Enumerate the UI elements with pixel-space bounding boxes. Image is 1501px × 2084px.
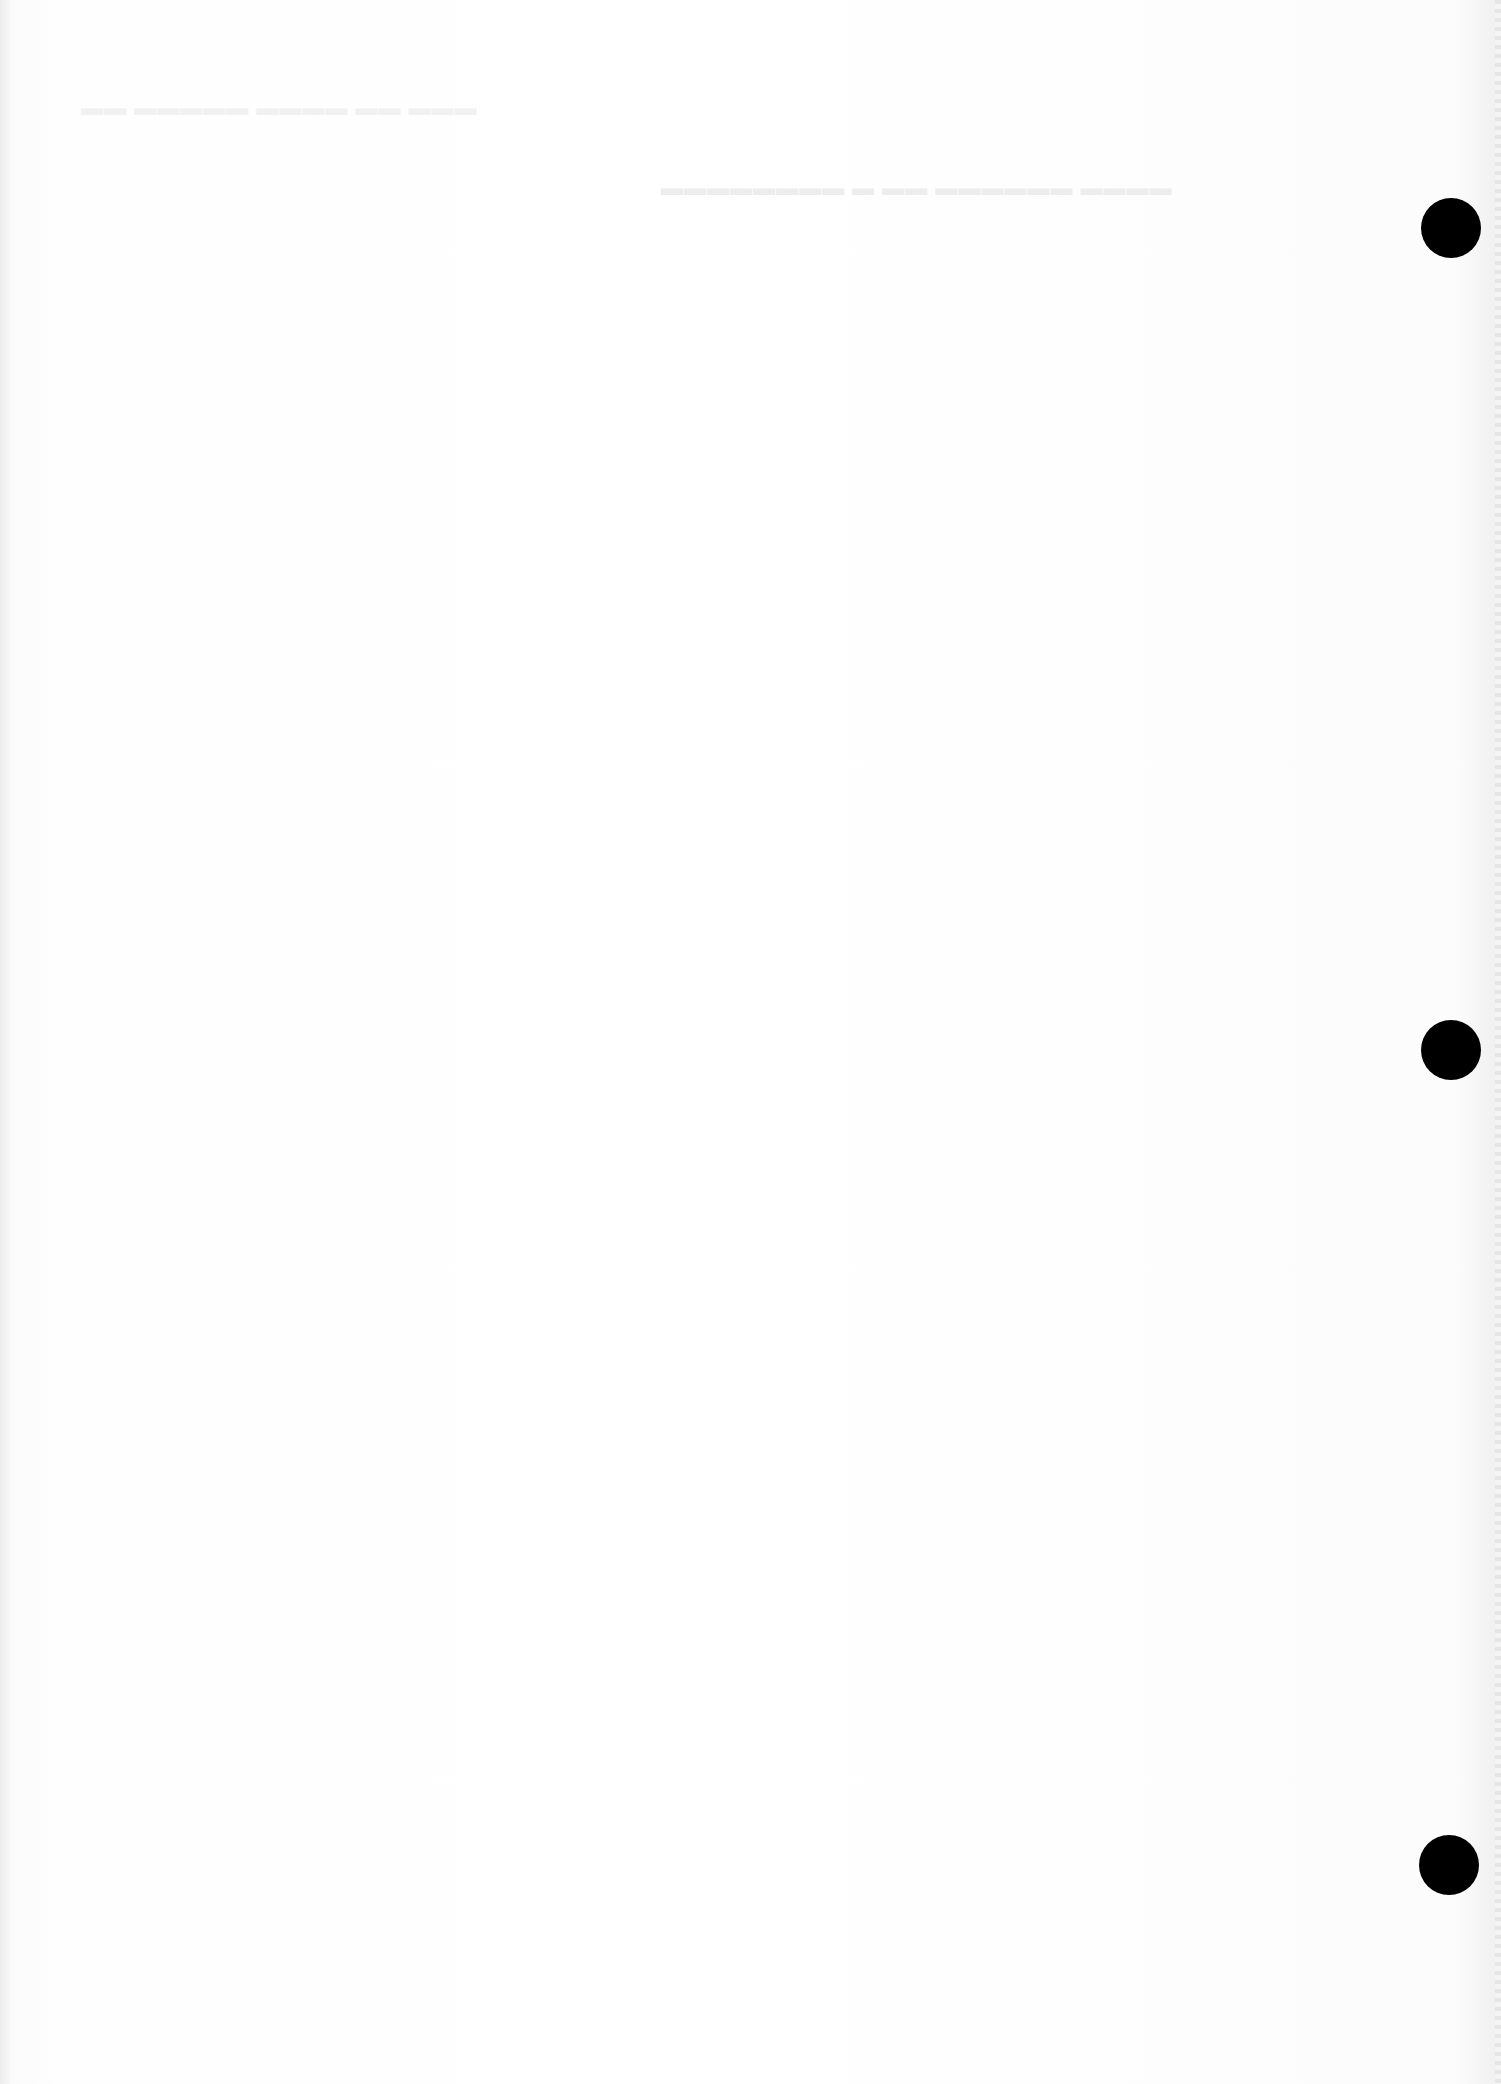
hole-punch-bottom [1419,1835,1479,1895]
bleed-through-text: ▬▬▬ ▬▬ ▬▬▬▬ ▬▬▬▬▬ ▬▬ [80,95,476,121]
hole-punch-top [1421,198,1481,258]
page-left-edge-shadow [0,0,10,2084]
blank-paper-page: ▬▬▬ ▬▬ ▬▬▬▬ ▬▬▬▬▬ ▬▬ ▬▬▬▬ ▬▬▬▬▬▬ ▬▬ ▬ ▬▬… [0,0,1501,2084]
bleed-through-text: ▬▬▬▬ ▬▬▬▬▬▬ ▬▬ ▬ ▬▬▬▬▬▬▬▬ [660,175,1171,201]
page-right-edge [1495,0,1501,2084]
hole-punch-middle [1421,1020,1481,1080]
